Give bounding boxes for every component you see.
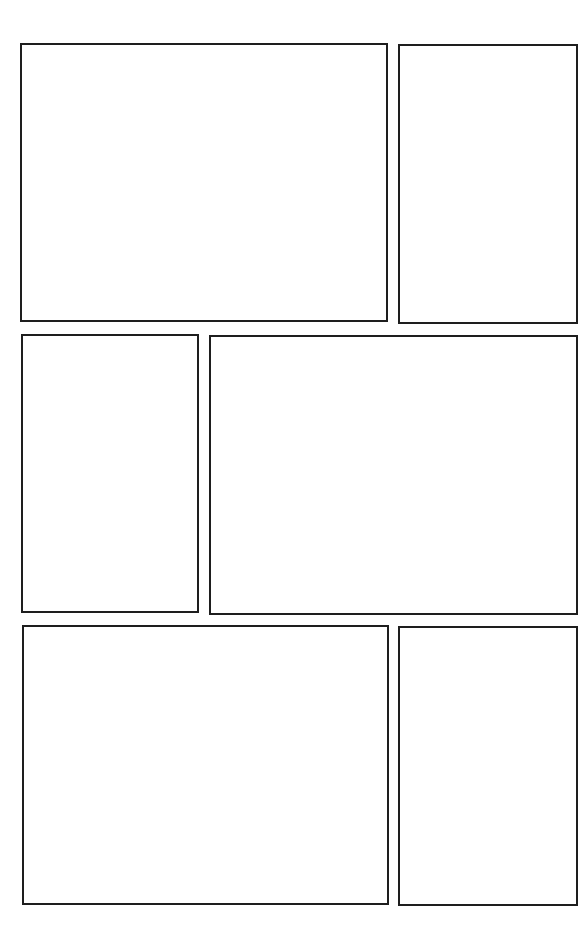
comic-page [0, 0, 583, 938]
panel-2 [398, 44, 578, 324]
panel-4 [209, 335, 578, 615]
panel-5 [22, 625, 389, 905]
panel-3 [21, 334, 199, 613]
panel-1 [20, 43, 388, 322]
panel-6 [398, 626, 578, 906]
